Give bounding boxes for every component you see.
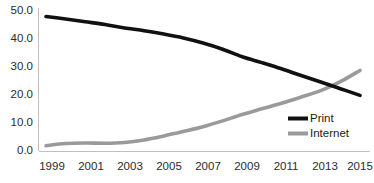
legend-label-print: Print <box>310 112 334 124</box>
y-tick-label: 10.0 <box>11 116 33 128</box>
y-tick-label: 30.0 <box>11 60 33 72</box>
legend-label-internet: Internet <box>310 127 350 139</box>
chart-canvas: 50.0 40.0 30.0 20.0 10.0 0.0 1999 2001 2… <box>0 0 374 183</box>
x-tick-label: 2011 <box>274 160 299 172</box>
x-axis-tick-labels: 1999 2001 2003 2005 2007 2009 2011 2013 … <box>39 160 373 172</box>
y-tick-label: 50.0 <box>11 4 33 16</box>
y-tick-label: 40.0 <box>11 32 33 44</box>
x-tick-label: 1999 <box>39 160 65 172</box>
y-tick-label: 20.0 <box>11 88 33 100</box>
x-tick-label: 2007 <box>195 160 221 172</box>
x-tick-label: 2003 <box>117 160 143 172</box>
x-tick-label: 2015 <box>347 160 373 172</box>
x-tick-label: 2005 <box>156 160 182 172</box>
x-tick-label: 2009 <box>234 160 260 172</box>
line-chart: 50.0 40.0 30.0 20.0 10.0 0.0 1999 2001 2… <box>0 0 374 183</box>
x-tick-label: 2001 <box>78 160 104 172</box>
y-tick-label: 0.0 <box>17 144 33 156</box>
x-tick-label: 2013 <box>312 160 338 172</box>
